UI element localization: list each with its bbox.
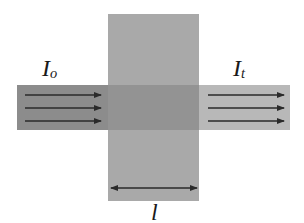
beam-in-medium — [108, 85, 199, 130]
incident-label-sub: o — [50, 65, 57, 81]
thickness-label: l — [151, 200, 158, 223]
transmitted-label-sub: t — [241, 65, 245, 81]
diagram-canvas — [0, 0, 304, 223]
transmitted-intensity-label: It — [233, 56, 245, 80]
transmitted-label-main: I — [233, 55, 241, 81]
incident-label-main: I — [42, 55, 50, 81]
incident-intensity-label: Io — [42, 56, 57, 80]
